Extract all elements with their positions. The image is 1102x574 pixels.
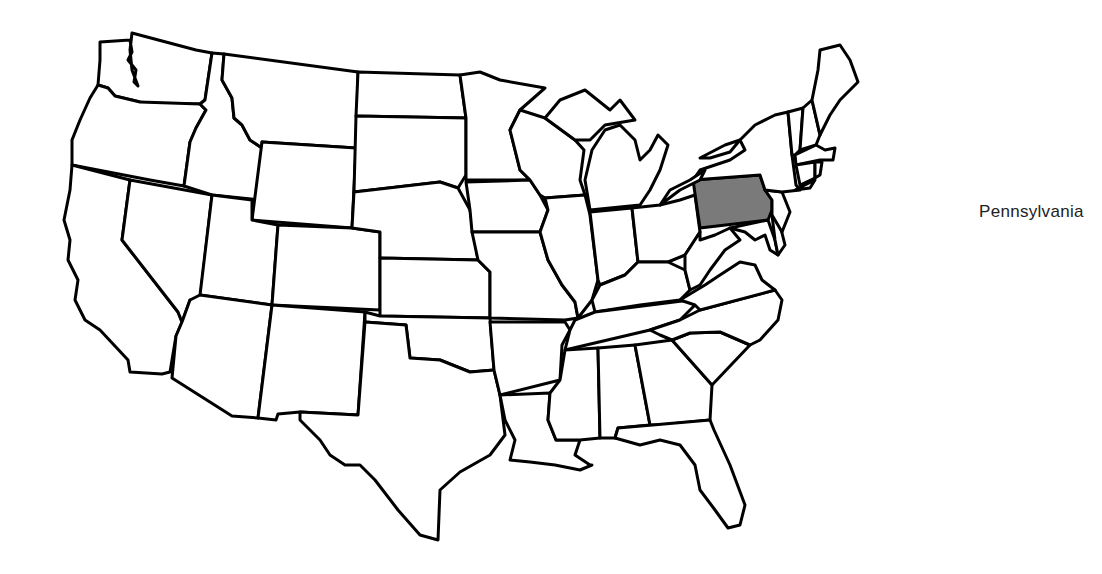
state-florida xyxy=(615,420,745,528)
state-new-mexico xyxy=(258,305,365,420)
state-arizona xyxy=(172,295,272,418)
state-south-dakota xyxy=(354,116,466,192)
state-colorado xyxy=(272,225,380,310)
us-map xyxy=(0,0,1102,574)
highlighted-state-label: Pennsylvania xyxy=(979,202,1084,222)
state-north-dakota xyxy=(356,72,466,118)
lake-ontario xyxy=(700,140,740,158)
state-wyoming xyxy=(252,142,356,228)
state-rhode-island xyxy=(815,162,822,178)
state-kansas xyxy=(380,258,490,318)
state-maine xyxy=(812,45,858,135)
state-washington xyxy=(98,33,212,104)
state-pennsylvania xyxy=(693,175,772,228)
state-michigan-lp xyxy=(585,125,668,210)
